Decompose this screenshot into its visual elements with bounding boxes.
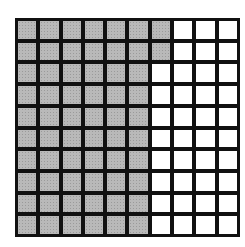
shaded-cell — [129, 173, 147, 191]
unshaded-cell — [152, 216, 170, 234]
shaded-cell — [63, 151, 81, 169]
unshaded-cell — [174, 130, 192, 148]
shaded-cell — [85, 195, 103, 213]
shaded-cell — [18, 130, 36, 148]
shaded-cell — [107, 130, 125, 148]
shaded-cell — [18, 195, 36, 213]
shaded-cell — [107, 43, 125, 61]
unshaded-cell — [152, 173, 170, 191]
shaded-cell — [85, 64, 103, 82]
shaded-cell — [18, 86, 36, 104]
unshaded-cell — [219, 43, 237, 61]
shaded-cell — [63, 43, 81, 61]
unshaded-cell — [219, 195, 237, 213]
shaded-cell — [129, 43, 147, 61]
shaded-cell — [152, 43, 170, 61]
unshaded-cell — [196, 21, 214, 39]
shaded-cell — [129, 64, 147, 82]
shaded-cell — [18, 21, 36, 39]
shaded-cell — [129, 86, 147, 104]
hundred-grid — [15, 18, 240, 237]
shaded-cell — [129, 21, 147, 39]
shaded-cell — [85, 43, 103, 61]
shaded-cell — [85, 21, 103, 39]
unshaded-cell — [219, 86, 237, 104]
shaded-cell — [40, 151, 58, 169]
shaded-cell — [63, 216, 81, 234]
shaded-cell — [85, 173, 103, 191]
shaded-cell — [40, 216, 58, 234]
unshaded-cell — [174, 86, 192, 104]
shaded-cell — [18, 43, 36, 61]
shaded-cell — [107, 195, 125, 213]
shaded-cell — [85, 108, 103, 126]
shaded-cell — [63, 130, 81, 148]
unshaded-cell — [174, 216, 192, 234]
shaded-cell — [107, 173, 125, 191]
unshaded-cell — [196, 43, 214, 61]
unshaded-cell — [219, 151, 237, 169]
unshaded-cell — [219, 173, 237, 191]
shaded-cell — [40, 64, 58, 82]
shaded-cell — [129, 195, 147, 213]
shaded-cell — [63, 86, 81, 104]
unshaded-cell — [174, 195, 192, 213]
shaded-cell — [107, 108, 125, 126]
unshaded-cell — [152, 64, 170, 82]
unshaded-cell — [196, 130, 214, 148]
shaded-cell — [63, 64, 81, 82]
unshaded-cell — [219, 130, 237, 148]
shaded-cell — [40, 130, 58, 148]
unshaded-cell — [196, 151, 214, 169]
shaded-cell — [107, 86, 125, 104]
unshaded-cell — [219, 21, 237, 39]
unshaded-cell — [174, 151, 192, 169]
shaded-cell — [129, 216, 147, 234]
shaded-cell — [107, 21, 125, 39]
unshaded-cell — [152, 108, 170, 126]
unshaded-cell — [174, 43, 192, 61]
unshaded-cell — [152, 151, 170, 169]
unshaded-cell — [196, 173, 214, 191]
unshaded-cell — [152, 195, 170, 213]
shaded-cell — [40, 86, 58, 104]
shaded-cell — [18, 173, 36, 191]
shaded-cell — [107, 151, 125, 169]
unshaded-cell — [196, 108, 214, 126]
shaded-cell — [129, 130, 147, 148]
unshaded-cell — [219, 108, 237, 126]
shaded-cell — [40, 195, 58, 213]
unshaded-cell — [174, 108, 192, 126]
unshaded-cell — [196, 64, 214, 82]
unshaded-cell — [196, 216, 214, 234]
unshaded-cell — [174, 173, 192, 191]
shaded-cell — [85, 130, 103, 148]
shaded-cell — [18, 151, 36, 169]
unshaded-cell — [152, 86, 170, 104]
shaded-cell — [40, 173, 58, 191]
shaded-cell — [40, 21, 58, 39]
shaded-cell — [40, 108, 58, 126]
unshaded-cell — [174, 21, 192, 39]
shaded-cell — [85, 216, 103, 234]
shaded-cell — [18, 216, 36, 234]
shaded-cell — [63, 195, 81, 213]
shaded-cell — [85, 151, 103, 169]
shaded-cell — [107, 216, 125, 234]
shaded-cell — [18, 64, 36, 82]
shaded-cell — [152, 21, 170, 39]
shaded-cell — [40, 43, 58, 61]
shaded-cell — [129, 108, 147, 126]
shaded-cell — [107, 64, 125, 82]
unshaded-cell — [196, 86, 214, 104]
shaded-cell — [63, 21, 81, 39]
shaded-cell — [129, 151, 147, 169]
unshaded-cell — [219, 216, 237, 234]
shaded-cell — [85, 86, 103, 104]
unshaded-cell — [219, 64, 237, 82]
unshaded-cell — [174, 64, 192, 82]
shaded-cell — [63, 173, 81, 191]
shaded-cell — [63, 108, 81, 126]
unshaded-cell — [196, 195, 214, 213]
shaded-cell — [18, 108, 36, 126]
